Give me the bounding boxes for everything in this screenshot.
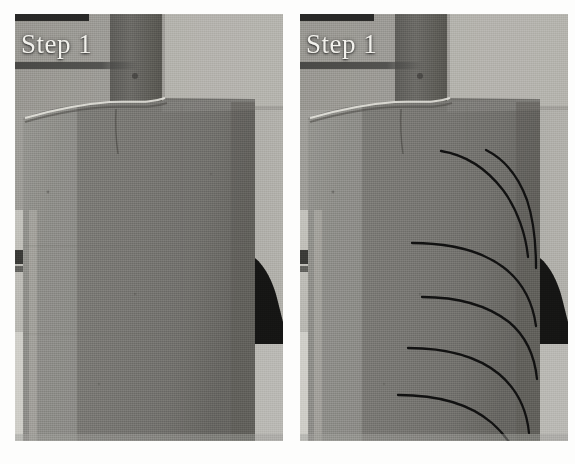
speckle <box>210 173 212 175</box>
figure-root: Step 1 <box>0 0 575 464</box>
panel-step1-cracks: Step 1 <box>300 14 568 441</box>
bottom-edge-band <box>15 434 283 441</box>
speckle <box>383 383 385 385</box>
plate-blemish <box>132 73 138 79</box>
specimen-right-shadow <box>516 102 540 441</box>
speckle <box>98 383 100 385</box>
speckle <box>419 293 421 295</box>
plate-blemish <box>417 73 423 79</box>
background-right-light <box>450 14 568 106</box>
specimen-left-edge-line <box>314 210 322 441</box>
specimen-right-shadow <box>231 102 255 441</box>
bottom-edge-band <box>300 434 568 441</box>
bench-right-strip <box>255 344 283 441</box>
bench-right-strip <box>540 344 568 441</box>
panel-step1-before: Step 1 <box>15 14 283 441</box>
photo-left <box>15 14 283 441</box>
loading-plate <box>110 14 162 106</box>
speckle <box>134 293 136 295</box>
speckle <box>47 191 50 194</box>
loading-plate <box>395 14 447 106</box>
photo-right <box>300 14 568 441</box>
speckle <box>332 191 335 194</box>
specimen-left-edge-line <box>29 210 37 441</box>
background-right-light <box>165 14 283 106</box>
